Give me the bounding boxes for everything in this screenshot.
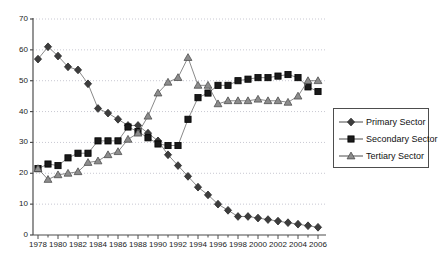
legend-item-tertiary-sector[interactable]: Tertiary Sector xyxy=(338,147,423,164)
y-axis-tick-label: 30 xyxy=(2,138,28,146)
legend-item-secondary-sector[interactable]: Secondary Sector xyxy=(338,130,423,147)
legend-label-primary-sector: Primary Sector xyxy=(364,117,426,127)
chart-legend: Primary Sector Secondary Sector Tertiary… xyxy=(333,108,429,168)
legend-marker-diamond-icon xyxy=(338,116,364,128)
legend-marker-square-icon xyxy=(338,133,364,145)
y-axis-tick-label: 20 xyxy=(2,169,28,177)
legend-label-secondary-sector: Secondary Sector xyxy=(364,134,438,144)
x-axis-tick-label: 2006 xyxy=(304,241,332,249)
y-axis-tick-label: 10 xyxy=(2,200,28,208)
legend-item-primary-sector[interactable]: Primary Sector xyxy=(338,113,423,130)
y-axis-tick-label: 0 xyxy=(2,231,28,239)
y-axis-tick-label: 70 xyxy=(2,15,28,23)
legend-marker-triangle-icon xyxy=(338,150,364,162)
legend-label-tertiary-sector: Tertiary Sector xyxy=(364,151,424,161)
y-axis-tick-label: 60 xyxy=(2,46,28,54)
y-axis-tick-label: 50 xyxy=(2,77,28,85)
y-axis-tick-label: 40 xyxy=(2,108,28,116)
